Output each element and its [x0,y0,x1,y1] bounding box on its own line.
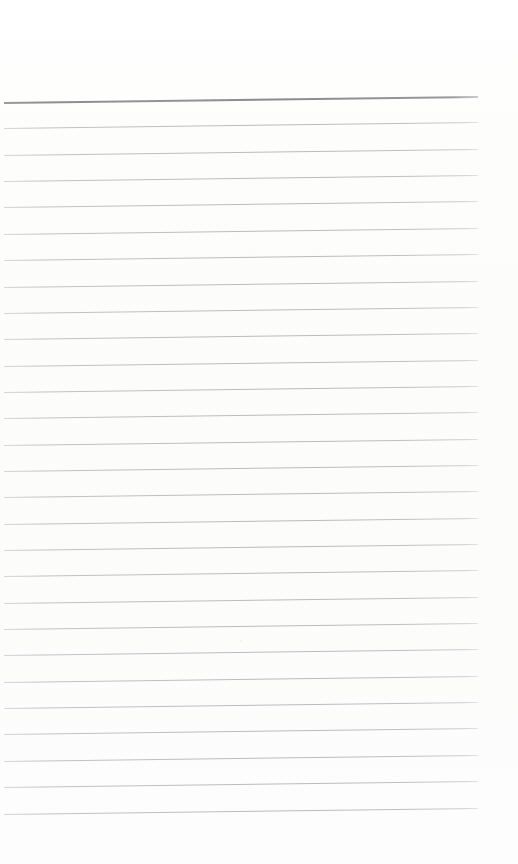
ruled-line-12 [4,412,478,419]
scan-speck-1 [240,640,242,642]
ruled-line-22 [4,676,478,683]
scan-speck-3 [402,206,403,207]
ruled-line-18 [4,570,478,577]
scan-speck-4 [156,742,157,743]
ruled-line-13 [4,439,478,446]
ruled-line-8 [4,307,478,314]
scan-noise-overlay [0,0,518,864]
ruled-line-5 [4,228,478,235]
header-rule [4,96,478,104]
ruled-line-14 [4,465,478,472]
ruled-line-7 [4,281,478,288]
ruled-line-4 [4,201,478,208]
ruled-line-9 [4,333,478,340]
scan-speck-5 [330,470,331,471]
ruled-line-6 [4,254,478,261]
ruled-lines-layer [0,0,518,864]
paper-background [0,0,518,864]
scanned-page [0,0,518,864]
ruled-line-24 [4,728,478,735]
ruled-line-2 [4,149,478,156]
ruled-line-23 [4,702,478,709]
ruled-line-25 [4,755,478,762]
ruled-line-19 [4,597,478,604]
ruled-line-1 [4,122,478,129]
ruled-line-16 [4,518,478,525]
ruled-line-26 [4,781,478,788]
ruled-line-17 [4,544,478,551]
ruled-line-20 [4,623,478,630]
ruled-line-27 [4,808,478,815]
ruled-line-3 [4,175,478,182]
scan-speck-2 [98,305,99,306]
ruled-line-15 [4,491,478,498]
ruled-line-10 [4,360,478,367]
ruled-line-21 [4,649,478,656]
ruled-line-11 [4,386,478,393]
